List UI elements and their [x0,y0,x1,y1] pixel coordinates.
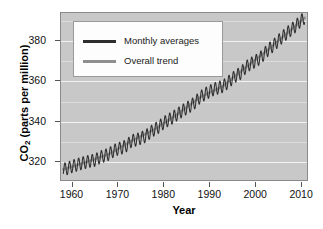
x-tick-label: 1980 [152,188,175,200]
co2-keeling-curve-figure: CO2 (parts per million) 320340360380 Mon… [0,0,323,229]
x-tick-label: 2000 [244,188,267,200]
y-tick-label: 320 [28,155,46,167]
legend-label-overall-trend: Overall trend [124,56,178,66]
legend-swatch-monthly-averages [83,40,116,43]
x-tick-mark [209,182,210,187]
x-tick-label: 1960 [60,188,83,200]
legend-item-monthly-averages: Monthly averages [83,32,222,50]
x-tick-labels: 196019701980199020002010 [60,188,308,202]
chart-legend: Monthly averages Overall trend [73,21,223,77]
y-tick-label: 380 [28,34,46,46]
x-axis-title: Year [60,204,308,216]
x-tick-mark [72,182,73,187]
x-tick-label: 1970 [106,188,129,200]
x-tick-mark [163,182,164,187]
x-tick-mark [117,182,118,187]
plot-panel: Monthly averages Overall trend [60,12,308,181]
legend-swatch-overall-trend [83,60,116,63]
legend-item-overall-trend: Overall trend [83,52,222,70]
x-tick-label: 2010 [289,188,312,200]
y-tick-marks [52,12,60,181]
y-tick-label: 360 [28,74,46,86]
x-tick-mark [255,182,256,187]
x-tick-label: 1990 [198,188,221,200]
y-tick-labels: 320340360380 [0,12,58,181]
legend-label-monthly-averages: Monthly averages [124,36,199,46]
y-tick-label: 340 [28,115,46,127]
x-tick-mark [301,182,302,187]
